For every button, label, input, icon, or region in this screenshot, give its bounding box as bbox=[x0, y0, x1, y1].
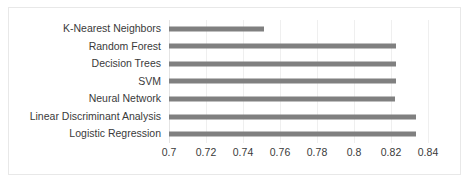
bar[interactable] bbox=[169, 61, 396, 66]
category-tick-label: Linear Discriminant Analysis bbox=[30, 108, 161, 126]
category-tick-label: Random Forest bbox=[89, 38, 161, 56]
bar-row bbox=[169, 108, 428, 126]
bar-row bbox=[169, 38, 428, 56]
bar-row bbox=[169, 125, 428, 143]
value-tick-label: 0.7 bbox=[162, 146, 177, 158]
category-tick-label: Neural Network bbox=[89, 90, 161, 108]
value-tick-label: 0.74 bbox=[233, 146, 253, 158]
bar[interactable] bbox=[169, 97, 395, 102]
value-tick-label: 0.8 bbox=[347, 146, 362, 158]
value-tick-label: 0.82 bbox=[381, 146, 401, 158]
category-tick-label: SVM bbox=[138, 73, 161, 91]
bar-row bbox=[169, 73, 428, 91]
bar-row bbox=[169, 55, 428, 73]
category-axis: K-Nearest NeighborsRandom ForestDecision… bbox=[9, 20, 161, 143]
bar[interactable] bbox=[169, 114, 416, 119]
category-tick-label: Logistic Regression bbox=[69, 125, 161, 143]
value-tick-label: 0.72 bbox=[196, 146, 216, 158]
value-tick-label: 0.76 bbox=[270, 146, 290, 158]
value-tick-label: 0.84 bbox=[418, 146, 438, 158]
value-tick-label: 0.78 bbox=[307, 146, 327, 158]
bar[interactable] bbox=[169, 26, 264, 31]
category-tick-label: Decision Trees bbox=[92, 55, 161, 73]
bar[interactable] bbox=[169, 132, 416, 137]
bar[interactable] bbox=[169, 44, 396, 49]
bar[interactable] bbox=[169, 79, 396, 84]
gridline bbox=[428, 20, 429, 143]
value-axis: 0.70.720.740.760.780.80.820.84 bbox=[169, 146, 428, 164]
category-tick-label: K-Nearest Neighbors bbox=[63, 20, 161, 38]
plot-area bbox=[169, 20, 428, 143]
bar-row bbox=[169, 20, 428, 38]
chart-frame: K-Nearest NeighborsRandom ForestDecision… bbox=[8, 7, 461, 175]
bar-row bbox=[169, 90, 428, 108]
